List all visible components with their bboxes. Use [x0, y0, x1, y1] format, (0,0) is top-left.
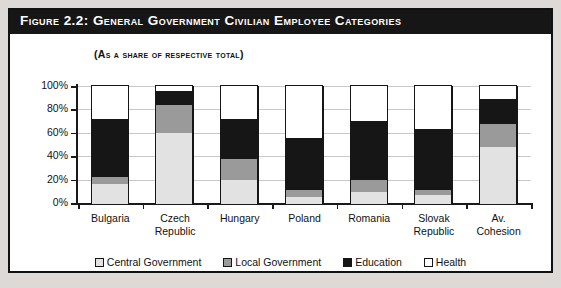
x-axis-label-line: Poland [272, 212, 337, 225]
legend-item: Health [424, 256, 466, 268]
bar-stack [415, 86, 453, 203]
scan-margin-left [0, 0, 8, 288]
bar-segment [220, 158, 258, 181]
legend-swatch-health [424, 258, 433, 267]
x-axis-label-line: Republic [402, 225, 467, 238]
bar-segment [350, 179, 388, 192]
legend-label: Local Government [235, 256, 321, 268]
bar-segment [91, 118, 129, 177]
y-axis-tick-label: 80% [16, 103, 68, 113]
legend-label: Health [436, 256, 466, 268]
x-axis-tick-label: CzechRepublic [143, 212, 208, 237]
scan-margin-bottom [0, 273, 561, 288]
bar-segment [414, 127, 452, 189]
legend-label: Central Government [107, 256, 202, 268]
x-axis-tick [531, 203, 533, 209]
x-axis-tick-label: Romania [337, 212, 402, 225]
bar-segment [220, 179, 258, 204]
bar-segment [479, 146, 517, 204]
y-axis-tick-label: 20% [16, 174, 68, 184]
x-axis-tick [402, 203, 404, 209]
legend-swatch-education [343, 258, 352, 267]
y-axis-tick-label: 40% [16, 150, 68, 160]
x-axis-label-line: Bulgaria [78, 212, 143, 225]
x-axis-tick [337, 203, 339, 209]
chart-plot: 100%80%60%40%20%0% BulgariaCzechRepublic… [10, 10, 551, 271]
bar-segment [350, 190, 388, 203]
bar-segment [220, 118, 258, 159]
legend-label: Education [355, 256, 402, 268]
figure-root: Figure 2.2: General Government Civilian … [0, 0, 561, 288]
scan-margin-top [0, 0, 561, 8]
bar-segment [479, 98, 517, 124]
bar-segment [155, 104, 193, 134]
x-axis-tick [466, 203, 468, 209]
x-axis-label-line: Hungary [207, 212, 272, 225]
bar-segment [479, 122, 517, 147]
y-axis-tick-label: 60% [16, 127, 68, 137]
x-axis-label-line: Republic [143, 225, 208, 238]
bar-segment [155, 132, 193, 204]
y-axis-tick-label: 100% [16, 80, 68, 90]
bar-segment [91, 182, 129, 203]
figure-frame: Figure 2.2: General Government Civilian … [8, 8, 553, 273]
bar-segment [350, 119, 388, 180]
x-axis-tick-label: Poland [272, 212, 337, 225]
bar-segment [155, 85, 193, 91]
x-axis-label-line: Romania [337, 212, 402, 225]
bar-stack [156, 86, 194, 203]
x-axis-tick-label: SlovakRepublic [402, 212, 467, 237]
bar-segment [91, 85, 129, 119]
x-axis-tick-label: Bulgaria [78, 212, 143, 225]
bar-segment [285, 136, 323, 189]
y-axis-tick-label: 0% [16, 197, 68, 207]
x-axis-tick [272, 203, 274, 209]
bar-segment [479, 85, 517, 99]
x-axis-label-line: Czech [143, 212, 208, 225]
scan-margin-right [553, 0, 561, 288]
legend-swatch-central-government [95, 258, 104, 267]
bar-segment [285, 85, 323, 138]
x-axis-label-line: Slovak [402, 212, 467, 225]
bar-stack [480, 86, 518, 203]
bar-stack [286, 86, 324, 203]
x-axis-tick-label: Av.Cohesion [466, 212, 531, 237]
chart-legend: Central GovernmentLocal GovernmentEducat… [10, 256, 551, 268]
legend-swatch-local-government [223, 258, 232, 267]
x-axis-label-line: Av. [466, 212, 531, 225]
plot-area [78, 86, 531, 203]
bar-segment [155, 90, 193, 106]
bar-stack [350, 86, 388, 203]
x-axis-label-line: Cohesion [466, 225, 531, 238]
bar-stack [221, 86, 259, 203]
x-axis-tick [78, 203, 80, 209]
legend-item: Local Government [223, 256, 321, 268]
x-axis-tick-label: Hungary [207, 212, 272, 225]
bar-segment [350, 85, 388, 121]
x-axis-tick [207, 203, 209, 209]
x-axis-tick [143, 203, 145, 209]
bar-stack [91, 86, 129, 203]
bar-segment [220, 85, 258, 119]
legend-item: Central Government [95, 256, 202, 268]
legend-item: Education [343, 256, 402, 268]
bar-segment [414, 85, 452, 129]
